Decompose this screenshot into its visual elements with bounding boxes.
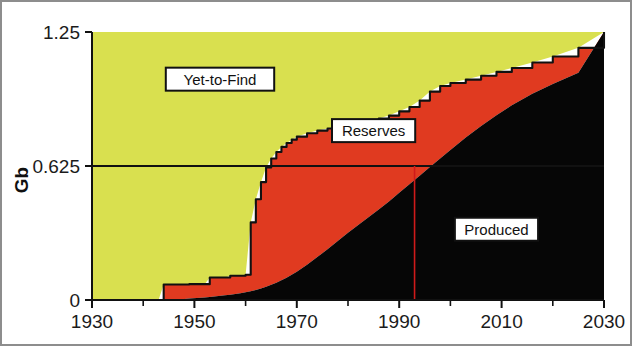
annotation-yet-to-find: Yet-to-Find — [166, 68, 274, 91]
y-axis-title: Gb — [11, 167, 32, 193]
annotation-label: Produced — [464, 221, 528, 238]
y-axis-tick-labels: 00.6251.25 — [32, 22, 80, 311]
x-axis-ticks — [92, 300, 604, 308]
annotation-produced: Produced — [455, 218, 538, 241]
y-tick-label: 0 — [69, 290, 80, 311]
figure-frame: Gb 00.6251.25 193019501970199020102030 Y… — [0, 0, 632, 346]
annotation-reserves: Reserves — [332, 119, 415, 142]
y-tick-label: 1.25 — [43, 22, 80, 43]
annotation-label: Reserves — [342, 122, 405, 139]
y-axis-ticks — [85, 32, 92, 300]
x-tick-label: 1990 — [378, 311, 420, 332]
x-tick-label: 1950 — [173, 311, 215, 332]
annotation-label: Yet-to-Find — [184, 71, 257, 88]
x-tick-label: 1930 — [71, 311, 113, 332]
y-tick-label: 0.625 — [32, 156, 80, 177]
chart-stage: Gb 00.6251.25 193019501970199020102030 Y… — [2, 2, 632, 346]
axis-labels: Gb — [11, 167, 32, 193]
x-axis-tick-labels: 193019501970199020102030 — [71, 311, 625, 332]
cumulative-oil-area-chart: Gb 00.6251.25 193019501970199020102030 Y… — [2, 2, 632, 346]
x-tick-label: 2010 — [480, 311, 522, 332]
x-tick-label: 1970 — [276, 311, 318, 332]
x-tick-label: 2030 — [583, 311, 625, 332]
